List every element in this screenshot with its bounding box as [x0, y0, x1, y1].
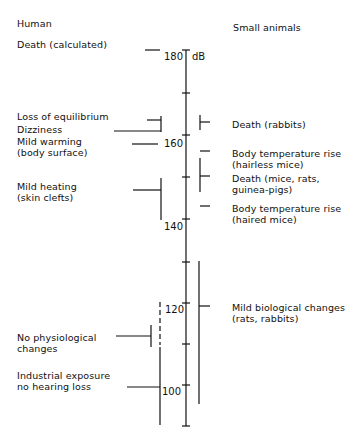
animal-death-rabbits: Death (rabbits)	[232, 119, 306, 130]
animal-death-mice-rats: Death (mice, rats, guinea-pigs)	[232, 173, 320, 195]
tick-label-140: 140	[164, 221, 183, 232]
human-industrial-exposure: Industrial exposure no hearing loss	[17, 370, 110, 392]
human-dizziness: Dizziness	[17, 124, 62, 135]
tick-label-100: 100	[162, 386, 181, 397]
animal-temp-rise-hairless: Body temperature rise (hairless mice)	[232, 148, 341, 170]
unit-label: dB	[192, 51, 205, 62]
human-no-physiological-changes: No physiological changes	[17, 332, 96, 354]
tick-label-180: 180	[164, 51, 183, 62]
human-mild-warming: Mild warming (body surface)	[17, 136, 87, 158]
tick-label-120: 120	[165, 304, 184, 315]
human-death-calculated: Death (calculated)	[17, 39, 107, 50]
tick-label-160: 160	[164, 138, 183, 149]
human-mild-heating: Mild heating (skin clefts)	[17, 181, 77, 203]
human-loss-of-equilibrium: Loss of equilibrium	[17, 111, 109, 122]
animal-mild-biological-changes: Mild biological changes (rats, rabbits)	[232, 302, 345, 324]
animal-temp-rise-haired: Body temperature rise (haired mice)	[232, 203, 341, 225]
